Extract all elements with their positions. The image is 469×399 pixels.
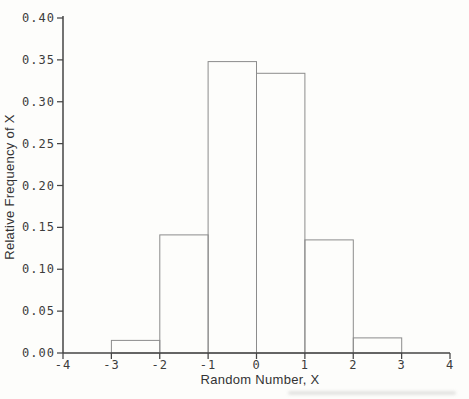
bars-group: [111, 62, 401, 353]
y-tick-label: 0.35: [22, 53, 55, 67]
tick-labels-group: 0.000.050.100.150.200.250.300.350.40-4-3…: [22, 11, 454, 372]
x-axis-title: Random Number, X: [201, 372, 320, 387]
y-tick-label: 0.05: [22, 304, 55, 318]
y-tick-label: 0.10: [22, 262, 55, 276]
scan-artifact: [288, 391, 456, 395]
histogram-bar: [353, 338, 401, 353]
axes-group: [57, 16, 450, 359]
x-tick-label: 4: [446, 358, 454, 372]
histogram-bar: [160, 235, 208, 353]
y-tick-label: 0.15: [22, 220, 55, 234]
y-axis-title: Relative Frequency of X: [2, 114, 17, 260]
x-tick-label: -4: [55, 358, 71, 372]
y-tick-label: 0.40: [22, 11, 55, 25]
histogram-bar: [111, 340, 159, 353]
x-tick-label: -2: [152, 358, 168, 372]
x-tick-label: -1: [200, 358, 216, 372]
y-tick-label: 0.00: [22, 346, 55, 360]
y-tick-label: 0.30: [22, 95, 55, 109]
x-tick-label: -3: [103, 358, 119, 372]
x-tick-label: 2: [349, 358, 357, 372]
y-tick-label: 0.25: [22, 137, 55, 151]
x-tick-label: 0: [252, 358, 260, 372]
x-tick-label: 3: [397, 358, 405, 372]
x-tick-label: 1: [301, 358, 309, 372]
y-tick-label: 0.20: [22, 179, 55, 193]
chart-canvas: 0.000.050.100.150.200.250.300.350.40-4-3…: [0, 0, 469, 399]
histogram-figure: 0.000.050.100.150.200.250.300.350.40-4-3…: [0, 0, 469, 399]
histogram-bar: [208, 62, 256, 353]
histogram-bar: [257, 73, 305, 353]
histogram-bar: [305, 240, 353, 353]
